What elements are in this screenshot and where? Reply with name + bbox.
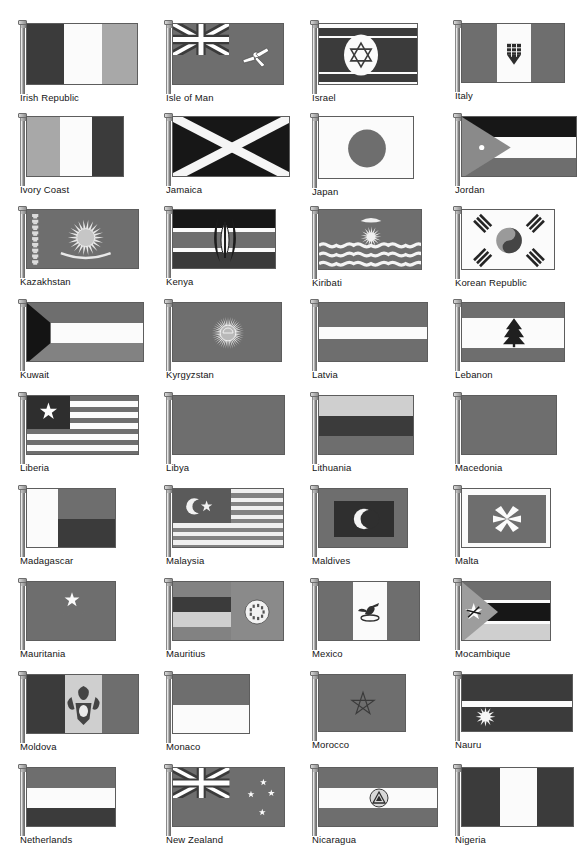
flag-cell-madagascar[interactable]: Madagascar	[20, 485, 118, 557]
flag-label-lebanon: Lebanon	[455, 369, 493, 380]
flag-label-jamaica: Jamaica	[166, 184, 202, 195]
flag-illustration-jamaica	[166, 113, 292, 186]
flag-graphic-lebanon	[461, 302, 565, 362]
flag-cell-mocambique[interactable]: Mocambique	[455, 578, 553, 650]
flag-cell-moldova[interactable]: Moldova	[20, 671, 141, 743]
flag-cell-mauritius[interactable]: Mauritius	[166, 578, 286, 650]
flagpole-mexico	[312, 578, 317, 650]
flag-illustration-kiribati	[312, 206, 424, 279]
flag-cell-jordan[interactable]: Jordan	[455, 113, 579, 186]
flag-graphic-nauru	[461, 674, 573, 732]
flag-graphic-mauritania	[26, 581, 116, 641]
flag-cell-mauritania[interactable]: Mauritania	[20, 578, 118, 650]
flag-cell-monaco[interactable]: Monaco	[166, 671, 252, 743]
flag-graphic-latvia	[318, 302, 428, 362]
flag-cell-nicaragua[interactable]: Nicaragua	[312, 764, 440, 836]
flag-cell-morocco[interactable]: Morocco	[312, 671, 408, 741]
flag-graphic-new-zealand	[172, 767, 285, 827]
flag-illustration-lebanon	[455, 299, 567, 371]
flag-cell-netherlands[interactable]: Netherlands	[20, 764, 118, 836]
flag-illustration-kyrgyzstan	[166, 299, 284, 371]
flag-graphic-italy	[461, 23, 565, 83]
flag-label-irish-republic: Irish Republic	[20, 92, 79, 103]
flag-illustration-ivory-coast	[20, 113, 126, 186]
flag-illustration-macedonia	[455, 392, 559, 464]
flag-label-kenya: Kenya	[166, 276, 193, 287]
flag-cell-lebanon[interactable]: Lebanon	[455, 299, 567, 371]
flag-label-mexico: Mexico	[312, 648, 343, 659]
flag-cell-macedonia[interactable]: Macedonia	[455, 392, 559, 464]
flag-cell-irish-republic[interactable]: Irish Republic	[20, 20, 140, 94]
flag-graphic-lithuania	[318, 395, 414, 455]
flag-label-mauritania: Mauritania	[20, 648, 65, 659]
flag-cell-isle-of-man[interactable]: Isle of Man	[166, 20, 286, 94]
flagpole-italy	[455, 20, 460, 92]
flag-graphic-kazakhstan	[26, 209, 139, 269]
flag-cell-kuwait[interactable]: Kuwait	[20, 299, 146, 371]
flagpole-liberia	[20, 392, 25, 464]
flag-illustration-kazakhstan	[20, 206, 141, 278]
flag-cell-malaysia[interactable]: Malaysia	[166, 485, 286, 557]
flag-cell-israel[interactable]: Israel	[312, 20, 420, 94]
flag-label-kazakhstan: Kazakhstan	[20, 276, 71, 287]
flag-cell-kyrgyzstan[interactable]: Kyrgyzstan	[166, 299, 284, 371]
flag-cell-jamaica[interactable]: Jamaica	[166, 113, 292, 186]
flag-label-japan: Japan	[312, 186, 338, 197]
flag-cell-kazakhstan[interactable]: Kazakhstan	[20, 206, 141, 278]
flag-cell-nigeria[interactable]: Nigeria	[455, 764, 576, 836]
flag-label-madagascar: Madagascar	[20, 555, 73, 566]
flag-cell-new-zealand[interactable]: New Zealand	[166, 764, 287, 836]
flag-illustration-mexico	[312, 578, 422, 650]
flag-cell-nauru[interactable]: Nauru	[455, 671, 575, 741]
flag-graphic-jordan	[461, 116, 577, 177]
flag-illustration-madagascar	[20, 485, 118, 557]
flag-graphic-mauritius	[172, 581, 284, 641]
flag-label-italy: Italy	[455, 90, 473, 101]
flag-label-maldives: Maldives	[312, 555, 350, 566]
flag-cell-maldives[interactable]: Maldives	[312, 485, 410, 557]
flag-cell-latvia[interactable]: Latvia	[312, 299, 430, 371]
flag-cell-italy[interactable]: Italy	[455, 20, 567, 92]
flagpole-netherlands	[20, 764, 25, 836]
flagpole-kiribati	[312, 206, 317, 279]
flag-illustration-mauritius	[166, 578, 286, 650]
flag-illustration-liberia	[20, 392, 141, 464]
flag-illustration-italy	[455, 20, 567, 92]
flagpole-latvia	[312, 299, 317, 371]
flag-graphic-liberia	[26, 395, 139, 455]
flag-cell-mexico[interactable]: Mexico	[312, 578, 422, 650]
flag-cell-libya[interactable]: Libya	[166, 392, 287, 464]
flagpole-nicaragua	[312, 764, 317, 836]
flag-graphic-mocambique	[461, 581, 551, 641]
flagpole-moldova	[20, 671, 25, 743]
flagpole-kuwait	[20, 299, 25, 371]
flag-illustration-morocco	[312, 671, 408, 741]
flag-graphic-ivory-coast	[26, 116, 124, 177]
flag-cell-lithuania[interactable]: Lithuania	[312, 392, 416, 464]
flag-cell-liberia[interactable]: Liberia	[20, 392, 141, 464]
flag-cell-ivory-coast[interactable]: Ivory Coast	[20, 113, 126, 186]
flag-graphic-kenya	[172, 209, 276, 269]
flagpole-jordan	[455, 113, 460, 186]
flag-graphic-korean-republic	[461, 209, 555, 270]
flag-cell-kiribati[interactable]: Kiribati	[312, 206, 424, 279]
flag-illustration-kenya	[166, 206, 278, 278]
flagpole-mauritius	[166, 578, 171, 650]
flagpole-new-zealand	[166, 764, 171, 836]
flag-label-kyrgyzstan: Kyrgyzstan	[166, 369, 214, 380]
flag-cell-japan[interactable]: Japan	[312, 113, 416, 188]
flag-graphic-mexico	[318, 581, 420, 641]
flagpole-kazakhstan	[20, 206, 25, 278]
flag-cell-malta[interactable]: Malta	[455, 485, 553, 557]
flag-label-ivory-coast: Ivory Coast	[20, 184, 69, 195]
flag-graphic-libya	[172, 395, 285, 455]
flag-graphic-madagascar	[26, 488, 116, 548]
flag-illustration-mauritania	[20, 578, 118, 650]
flag-illustration-nauru	[455, 671, 575, 741]
flag-cell-kenya[interactable]: Kenya	[166, 206, 278, 278]
flag-cell-korean-republic[interactable]: Korean Republic	[455, 206, 557, 279]
flag-illustration-netherlands	[20, 764, 118, 836]
flagpole-jamaica	[166, 113, 171, 186]
flag-label-korean-republic: Korean Republic	[455, 277, 527, 288]
flag-illustration-japan	[312, 113, 416, 188]
